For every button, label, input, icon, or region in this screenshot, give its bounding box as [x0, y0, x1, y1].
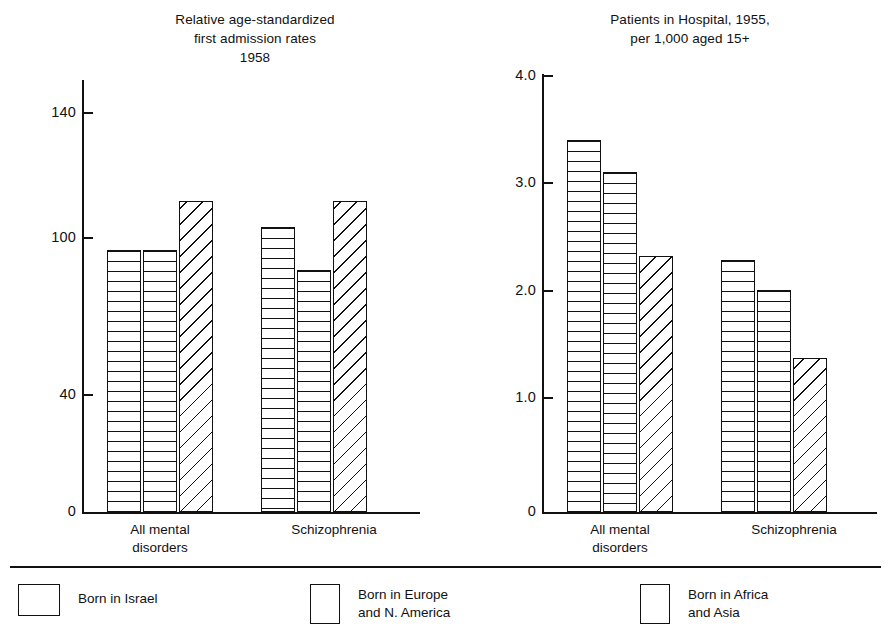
left-ytick-label-0: 0: [20, 503, 76, 519]
legend-label-africa-asia: Born in Africa and Asia: [688, 586, 878, 622]
left-bar-g2-israel: [261, 227, 295, 512]
legend-label-israel: Born in Israel: [78, 590, 253, 608]
legend-separator-rule: [10, 566, 881, 568]
left-ytick-40: [84, 394, 93, 396]
right-x-axis: [542, 512, 877, 514]
right-ytick-label-2: 2.0: [474, 282, 536, 298]
right-chart-panel: 4.0 3.0 2.0 1.0 0 All mental disorders S…: [440, 0, 891, 560]
legend-swatch-grid-icon: [310, 584, 340, 624]
right-category-label-1: All mental disorders: [560, 521, 680, 557]
left-chart-panel: 140 100 40 0 All mental disorders Schizo…: [0, 0, 440, 560]
left-category-label-2: Schizophrenia: [254, 521, 414, 539]
right-ytick-label-4: 4.0: [474, 67, 536, 83]
left-ytick-100: [84, 237, 93, 239]
left-bar-g1-israel: [107, 250, 141, 512]
legend-item-africa-asia: Born in Africa and Asia: [640, 584, 880, 634]
right-ytick-label-0: 0: [474, 503, 536, 519]
right-bar-g1-israel: [567, 140, 601, 512]
right-ytick-1: [544, 397, 553, 399]
left-bar-g2-africa: [333, 201, 367, 512]
right-category-label-2: Schizophrenia: [714, 521, 874, 539]
right-bar-g1-africa: [639, 256, 673, 512]
right-bar-g1-europe: [603, 172, 637, 512]
right-ytick-2: [544, 290, 553, 292]
legend-swatch-diagonal-hatch-icon: [640, 584, 670, 624]
legend-item-israel: Born in Israel: [18, 584, 258, 628]
right-ytick-3: [544, 182, 553, 184]
legend-item-europe-namerica: Born in Europe and N. America: [310, 584, 560, 634]
left-ytick-label-100: 100: [20, 229, 76, 245]
left-bar-g1-europe: [143, 250, 177, 512]
right-bar-g2-africa: [793, 358, 827, 512]
right-ytick-label-3: 3.0: [474, 174, 536, 190]
right-bar-g2-israel: [721, 260, 755, 512]
left-category-label-1: All mental disorders: [100, 521, 220, 557]
left-ytick-label-140: 140: [20, 104, 76, 120]
left-y-axis: [82, 80, 84, 514]
figure-root: Relative age-standardized first admissio…: [0, 0, 891, 640]
legend-label-europe-namerica: Born in Europe and N. America: [358, 586, 558, 622]
left-x-axis: [82, 512, 420, 514]
left-bar-g2-europe: [297, 270, 331, 512]
right-ytick-4: [544, 75, 553, 77]
right-ytick-label-1: 1.0: [474, 389, 536, 405]
right-bar-g2-europe: [757, 290, 791, 512]
right-y-axis: [542, 74, 544, 514]
left-bar-g1-africa: [179, 201, 213, 512]
legend-swatch-horizontal-lines-icon: [18, 584, 60, 616]
left-ytick-140: [84, 112, 93, 114]
left-ytick-label-40: 40: [20, 386, 76, 402]
